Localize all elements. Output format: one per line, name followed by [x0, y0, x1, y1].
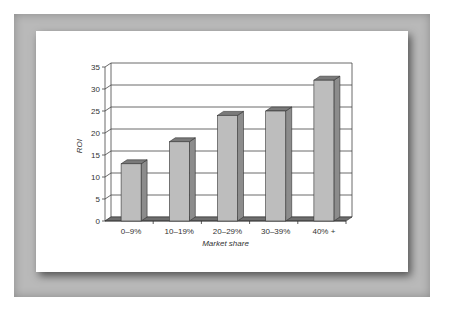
bar: [314, 80, 334, 221]
side-gridline: [105, 63, 111, 67]
x-tick-label: 10–19%: [165, 227, 194, 236]
x-tick-label: 20–29%: [213, 227, 242, 236]
side-gridline: [105, 195, 111, 199]
y-tick-label: 10: [91, 173, 100, 182]
y-tick-label: 25: [91, 107, 100, 116]
roi-bar-chart: 051015202530350–9%10–19%20–29%30–39%40% …: [0, 0, 449, 314]
bar: [169, 142, 189, 221]
side-gridline: [105, 107, 111, 111]
side-gridline: [105, 129, 111, 133]
y-tick-label: 15: [91, 151, 100, 160]
y-tick-label: 30: [91, 85, 100, 94]
side-gridline: [105, 173, 111, 177]
side-gridline: [105, 85, 111, 89]
bar-side: [238, 111, 244, 221]
x-axis-label: Market share: [202, 239, 249, 248]
bar: [266, 111, 286, 221]
y-axis-label: ROI: [75, 138, 84, 153]
bar-side: [189, 138, 195, 221]
bar-side: [286, 107, 292, 221]
y-tick-label: 5: [96, 195, 101, 204]
x-tick-label: 30–39%: [261, 227, 290, 236]
bar: [218, 115, 238, 221]
side-gridline: [105, 151, 111, 155]
bar: [121, 164, 141, 221]
y-tick-label: 0: [96, 217, 101, 226]
y-tick-label: 20: [91, 129, 100, 138]
bar-side: [334, 76, 340, 221]
x-tick-label: 0–9%: [121, 227, 141, 236]
y-tick-label: 35: [91, 63, 100, 72]
x-tick-label: 40% +: [312, 227, 335, 236]
bar-side: [141, 160, 147, 221]
